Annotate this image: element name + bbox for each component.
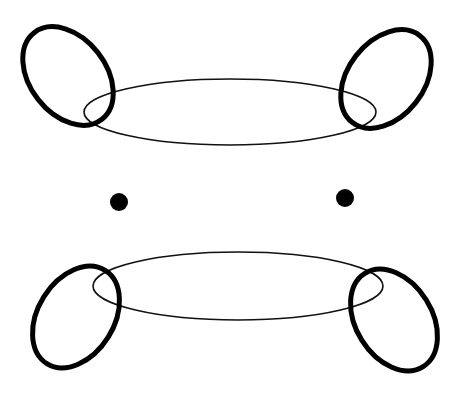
background <box>0 0 461 394</box>
left-dot <box>110 193 128 211</box>
diagram-canvas <box>0 0 461 394</box>
right-dot <box>336 189 354 207</box>
